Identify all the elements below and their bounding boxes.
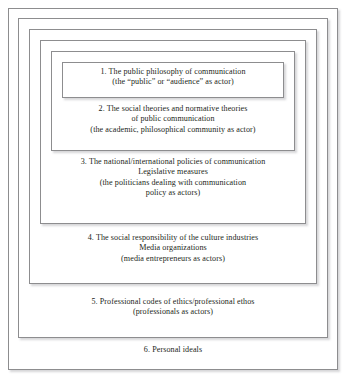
- level-5-line-2: (professionals as actors): [18, 307, 328, 317]
- level-4-line-2: Media organizations: [29, 243, 317, 253]
- level-3-line-3: (the politicians dealing with communicat…: [29, 178, 317, 188]
- level-3-line-2: Legislative measures: [29, 167, 317, 177]
- level-2-text: 2. The social theories and normative the…: [51, 104, 295, 135]
- level-6-text: 6. Personal ideals: [8, 345, 338, 355]
- level-5-text: 5. Professional codes of ethics/professi…: [18, 297, 328, 318]
- level-3-text: 3. The national/international policies o…: [29, 157, 317, 198]
- level-2-line-2: of public communication: [51, 114, 295, 124]
- level-5-line-1: 5. Professional codes of ethics/professi…: [18, 297, 328, 307]
- level-3-line-1: 3. The national/international policies o…: [29, 157, 317, 167]
- level-2-line-1: 2. The social theories and normative the…: [51, 104, 295, 114]
- level-6-line-1: 6. Personal ideals: [8, 345, 338, 355]
- level-3-line-4: policy as actors): [29, 188, 317, 198]
- level-4-line-3: (media entrepreneurs as actors): [29, 254, 317, 264]
- level-4-text: 4. The social responsibility of the cult…: [29, 233, 317, 264]
- nested-levels-diagram: 1. The public philosophy of communicatio…: [0, 0, 348, 378]
- level-4-line-1: 4. The social responsibility of the cult…: [29, 233, 317, 243]
- level-1-line-1: 1. The public philosophy of communicatio…: [62, 67, 284, 77]
- level-1-line-2: (the “public” or “audience” as actor): [62, 77, 284, 87]
- level-2-line-3: (the academic, philosophical community a…: [51, 125, 295, 135]
- level-1-text: 1. The public philosophy of communicatio…: [62, 67, 284, 88]
